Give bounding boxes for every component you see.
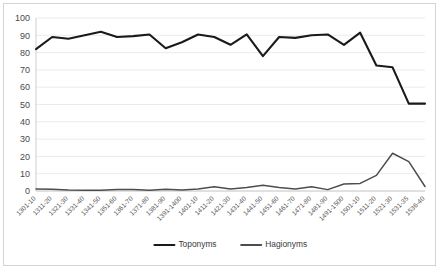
y-axis-tick-label: 50	[20, 100, 30, 110]
y-axis-tick-label: 90	[20, 31, 30, 41]
series-line-toponyms	[36, 32, 425, 104]
y-axis-tick-label: 0	[25, 186, 30, 196]
legend-label-toponyms: Toponyms	[178, 239, 216, 249]
y-axis-tick-label: 60	[20, 82, 30, 92]
legend-label-hagionyms: Hagionyms	[265, 239, 307, 249]
series-line-hagionyms	[36, 153, 425, 190]
y-axis-tick-label: 10	[20, 169, 30, 179]
y-axis-tick-label: 100	[15, 13, 30, 23]
y-axis-tick-label: 70	[20, 65, 30, 75]
line-chart: 01020304050607080901001301-101311-201321…	[4, 4, 437, 267]
chart-container: 01020304050607080901001301-101311-201321…	[3, 3, 436, 266]
y-axis-tick-label: 20	[20, 152, 30, 162]
y-axis-tick-label: 40	[20, 117, 30, 127]
y-axis-tick-label: 30	[20, 134, 30, 144]
plot-area: 01020304050607080901001301-101311-201321…	[4, 4, 437, 267]
y-axis-tick-label: 80	[20, 48, 30, 58]
